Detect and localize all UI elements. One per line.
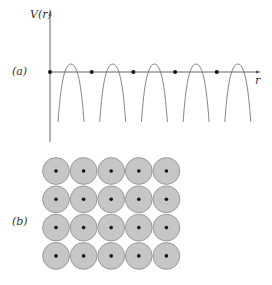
atom-core: [54, 169, 58, 173]
potential-curve: [141, 64, 167, 122]
potential-curve: [225, 64, 251, 122]
x-axis-label: r: [255, 74, 261, 87]
atom-core: [54, 226, 58, 230]
atom-core: [54, 254, 58, 258]
atom-core: [82, 226, 86, 230]
potential-curve: [183, 64, 209, 122]
atom-core: [82, 169, 86, 173]
atom-dot: [173, 70, 177, 74]
atom-grid: [43, 158, 180, 270]
atom-core: [165, 254, 169, 258]
atom-core: [165, 169, 169, 173]
atom-core: [165, 198, 169, 202]
atom-dot: [48, 70, 52, 74]
potential-curve: [100, 64, 126, 122]
atom-core: [137, 226, 141, 230]
atom-core: [109, 169, 113, 173]
atom-core: [109, 226, 113, 230]
atom-core: [109, 198, 113, 202]
atom-core: [137, 254, 141, 258]
atom-core: [137, 198, 141, 202]
panel-a: (a) V(r) r: [12, 8, 261, 142]
potential-curve: [58, 64, 84, 122]
potential-wells: [58, 64, 251, 122]
figure: (a) V(r) r (b): [0, 0, 272, 285]
panel-a-label: (a): [12, 65, 27, 78]
atom-core: [54, 198, 58, 202]
atom-core: [82, 254, 86, 258]
atom-dot: [90, 70, 94, 74]
atom-dot: [131, 70, 135, 74]
atom-core: [165, 226, 169, 230]
atom-dot: [215, 70, 219, 74]
atom-core: [137, 169, 141, 173]
panel-b: (b): [12, 158, 180, 270]
y-axis-label: V(r): [30, 8, 52, 21]
panel-b-label: (b): [12, 215, 28, 228]
atom-core: [109, 254, 113, 258]
atom-core: [82, 198, 86, 202]
